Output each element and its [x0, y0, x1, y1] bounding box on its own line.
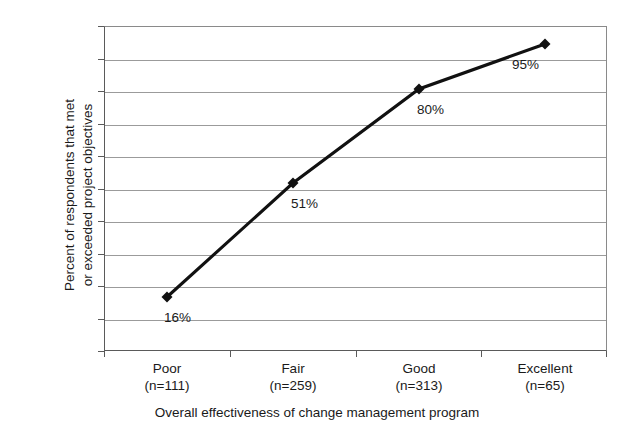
x-tick-mark: [606, 351, 607, 357]
x-category-count: (n=65): [470, 377, 620, 394]
x-category-name: Excellent: [518, 361, 573, 376]
y-tick-mark: [98, 221, 104, 222]
x-tick-mark: [356, 351, 357, 357]
x-axis-title: Overall effectiveness of change manageme…: [0, 405, 634, 420]
y-axis-title: Percent of respondents that met or excee…: [59, 45, 99, 345]
x-category-name: Poor: [153, 361, 182, 376]
data-label-fair: 51%: [291, 197, 318, 211]
gridline: [105, 222, 606, 223]
y-tick-mark: [98, 26, 104, 27]
y-tick-mark: [98, 91, 104, 92]
gridline: [105, 157, 606, 158]
y-tick-mark: [98, 124, 104, 125]
x-tick-mark: [104, 351, 105, 357]
line-chart: Percent of respondents that met or excee…: [0, 0, 634, 439]
y-tick-mark: [98, 254, 104, 255]
gridline: [105, 287, 606, 288]
y-tick-mark: [98, 59, 104, 60]
y-tick-mark: [98, 156, 104, 157]
y-tick-mark: [98, 189, 104, 190]
y-tick-mark: [98, 319, 104, 320]
y-axis-title-line-1: Percent of respondents that met: [61, 99, 79, 291]
y-tick-mark: [98, 286, 104, 287]
x-category-name: Fair: [281, 361, 304, 376]
x-tick-mark: [481, 351, 482, 357]
x-category-label-excellent: Excellent (n=65): [470, 360, 620, 394]
plot-area: [104, 26, 607, 351]
gridline: [105, 255, 606, 256]
data-label-excellent: 95%: [512, 58, 539, 72]
data-label-poor: 16%: [164, 311, 191, 325]
x-tick-mark: [230, 351, 231, 357]
data-label-good: 80%: [417, 103, 444, 117]
gridline: [105, 190, 606, 191]
y-axis-title-line-2: or exceeded project objectives: [79, 104, 97, 286]
gridline: [105, 125, 606, 126]
gridline: [105, 92, 606, 93]
x-category-name: Good: [402, 361, 435, 376]
